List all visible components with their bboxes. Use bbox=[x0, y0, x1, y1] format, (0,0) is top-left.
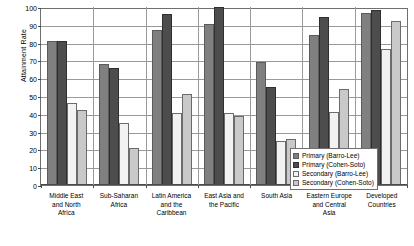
legend-label: Secondary (Cohen-Soto) bbox=[302, 179, 374, 186]
bar bbox=[381, 49, 391, 185]
bar bbox=[129, 148, 139, 185]
bar bbox=[224, 113, 234, 185]
legend-swatch-icon bbox=[293, 180, 299, 186]
category-label-line: Sub-Saharan bbox=[94, 192, 145, 201]
y-axis-title: Attainment Rate bbox=[20, 1, 27, 111]
bar bbox=[119, 123, 129, 185]
bar bbox=[57, 41, 67, 185]
x-axis-tick-mark bbox=[146, 185, 147, 188]
legend-label: Primary (Barro-Lee) bbox=[302, 152, 359, 159]
bar bbox=[109, 68, 119, 185]
category-label-line: Developed bbox=[356, 192, 407, 201]
category-label-line: Latin America bbox=[146, 192, 197, 201]
bar bbox=[47, 41, 57, 185]
legend-item: Primary (Cohen-Soto) bbox=[293, 160, 374, 169]
bar bbox=[266, 87, 276, 185]
category-label-line: Countries bbox=[356, 201, 407, 210]
bar bbox=[391, 21, 401, 185]
category-label-line: and North bbox=[41, 201, 92, 210]
x-axis-category-label: DevelopedCountries bbox=[355, 192, 408, 218]
legend-swatch-icon bbox=[293, 162, 299, 168]
bar-group bbox=[41, 8, 93, 185]
category-label-line: and the bbox=[146, 201, 197, 210]
legend-label: Primary (Cohen-Soto) bbox=[302, 161, 365, 168]
x-axis-category-label: Eastern Europeand CentralAsia bbox=[303, 192, 356, 218]
legend-swatch-icon bbox=[293, 153, 299, 159]
legend: Primary (Barro-Lee)Primary (Cohen-Soto)S… bbox=[290, 148, 378, 190]
bar bbox=[214, 7, 224, 185]
bar bbox=[276, 141, 286, 186]
group-separator bbox=[198, 7, 199, 185]
x-axis-tick-mark bbox=[41, 185, 42, 188]
category-label-line: Middle East bbox=[41, 192, 92, 201]
category-label-line: South Asia bbox=[251, 192, 302, 201]
x-axis-tick-mark bbox=[93, 185, 94, 188]
category-label-line: and Central bbox=[304, 201, 355, 210]
x-axis-category-label: South Asia bbox=[250, 192, 303, 218]
legend-item: Primary (Barro-Lee) bbox=[293, 151, 374, 160]
bar-group bbox=[93, 8, 145, 185]
category-label-line: East Asia and bbox=[199, 192, 250, 201]
x-axis-category-labels: Middle Eastand NorthAfricaSub-SaharanAfr… bbox=[40, 192, 408, 218]
bar bbox=[172, 113, 182, 185]
bar bbox=[99, 64, 109, 185]
bar bbox=[67, 103, 77, 185]
legend-label: Secondary (Barro-Lee) bbox=[302, 170, 368, 177]
legend-swatch-icon bbox=[293, 171, 299, 177]
group-separator bbox=[250, 7, 251, 185]
group-separator bbox=[146, 7, 147, 185]
x-axis-tick-mark bbox=[198, 185, 199, 188]
category-label-line: Eastern Europe bbox=[304, 192, 355, 201]
x-axis-tick-mark bbox=[250, 185, 251, 188]
category-label-line: Africa bbox=[94, 201, 145, 210]
x-axis-category-label: East Asia andthe Pacific bbox=[198, 192, 251, 218]
bar bbox=[152, 30, 162, 185]
group-separator bbox=[93, 7, 94, 185]
bar-group bbox=[198, 8, 250, 185]
bar bbox=[234, 116, 244, 185]
category-label-line: Africa bbox=[41, 209, 92, 218]
legend-item: Secondary (Cohen-Soto) bbox=[293, 178, 374, 187]
x-axis-tick-mark bbox=[407, 185, 408, 188]
x-axis-category-label: Middle Eastand NorthAfrica bbox=[40, 192, 93, 218]
category-label-line: Caribbean bbox=[146, 209, 197, 218]
bar bbox=[182, 94, 192, 185]
category-label-line: the Pacific bbox=[199, 201, 250, 210]
bar bbox=[256, 62, 266, 185]
attainment-rate-bar-chart: Attainment Rate 0102030405060708090100 M… bbox=[0, 0, 414, 246]
legend-item: Secondary (Barro-Lee) bbox=[293, 169, 374, 178]
category-label-line: Asia bbox=[304, 209, 355, 218]
bar bbox=[162, 14, 172, 185]
x-axis-category-label: Sub-SaharanAfrica bbox=[93, 192, 146, 218]
bar bbox=[77, 110, 87, 185]
bar-group bbox=[146, 8, 198, 185]
x-axis-category-label: Latin Americaand theCaribbean bbox=[145, 192, 198, 218]
bar bbox=[204, 24, 214, 185]
